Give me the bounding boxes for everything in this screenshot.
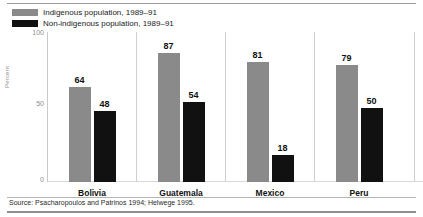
bar-bolivia-nonindigenous[interactable] <box>94 111 116 182</box>
legend-label-indigenous: Indigenous population, 1989–91 <box>43 8 157 17</box>
bar-value-bolivia-indigenous: 64 <box>74 75 84 85</box>
chart-figure: Indigenous population, 1989–91 Non-indig… <box>0 0 423 217</box>
bar-holder-peru-nonindigenous: 50 <box>361 34 383 182</box>
bar-value-peru-nonindigenous: 50 <box>366 96 376 106</box>
nonindigenous-swatch-icon <box>12 20 38 27</box>
bar-holder-bolivia-nonindigenous: 48 <box>94 34 116 182</box>
bar-mexico-nonindigenous[interactable] <box>272 155 294 182</box>
bottom-divider <box>7 211 416 213</box>
indigenous-swatch-icon <box>12 9 38 16</box>
bar-value-guatemala-nonindigenous: 54 <box>188 90 198 100</box>
group-guatemala: 87 54 Guatemala <box>137 28 225 188</box>
bar-holder-guatemala-indigenous: 87 <box>158 34 180 182</box>
legend-item-indigenous: Indigenous population, 1989–91 <box>12 8 174 17</box>
plot-area: Percent 100 50 0 64 48 <box>0 28 423 188</box>
bars-peru: 79 50 <box>315 34 403 182</box>
bar-value-mexico-nonindigenous: 18 <box>277 143 287 153</box>
y-axis-ticks: 100 50 0 <box>28 28 44 188</box>
bar-value-guatemala-indigenous: 87 <box>163 41 173 51</box>
bar-bolivia-indigenous[interactable] <box>69 87 91 182</box>
bar-holder-peru-indigenous: 79 <box>336 34 358 182</box>
source-note: Source: Psacharopoulos and Patrinos 1994… <box>9 199 195 206</box>
y-axis-title: Percent <box>4 54 10 100</box>
group-peru: 79 50 Peru <box>315 28 403 188</box>
source-divider <box>7 197 416 198</box>
bar-holder-mexico-nonindigenous: 18 <box>272 34 294 182</box>
group-bolivia: 64 48 Bolivia <box>48 28 136 188</box>
bar-value-mexico-indigenous: 81 <box>252 50 262 60</box>
group-separator-4 <box>414 32 415 182</box>
bar-mexico-indigenous[interactable] <box>247 62 269 182</box>
bar-holder-bolivia-indigenous: 64 <box>69 34 91 182</box>
y-tick-100: 100 <box>30 29 44 36</box>
bar-guatemala-nonindigenous[interactable] <box>183 102 205 182</box>
bar-groups: 64 48 Bolivia 87 <box>48 28 423 188</box>
y-tick-50: 50 <box>30 100 44 107</box>
chart-legend: Indigenous population, 1989–91 Non-indig… <box>12 8 174 28</box>
bar-value-bolivia-nonindigenous: 48 <box>99 99 109 109</box>
bars-guatemala: 87 54 <box>137 34 225 182</box>
bar-holder-mexico-indigenous: 81 <box>247 34 269 182</box>
bars-mexico: 81 18 <box>226 34 314 182</box>
bars-bolivia: 64 48 <box>48 34 136 182</box>
legend-item-nonindigenous: Non-indigenous population, 1989–91 <box>12 19 174 28</box>
y-tick-0: 0 <box>30 176 44 183</box>
bar-peru-nonindigenous[interactable] <box>361 108 383 182</box>
group-mexico: 81 18 Mexico <box>226 28 314 188</box>
bar-holder-guatemala-nonindigenous: 54 <box>183 34 205 182</box>
bar-peru-indigenous[interactable] <box>336 65 358 182</box>
bar-value-peru-indigenous: 79 <box>341 53 351 63</box>
legend-label-nonindigenous: Non-indigenous population, 1989–91 <box>43 19 174 28</box>
top-divider <box>7 3 416 4</box>
bar-guatemala-indigenous[interactable] <box>158 53 180 182</box>
